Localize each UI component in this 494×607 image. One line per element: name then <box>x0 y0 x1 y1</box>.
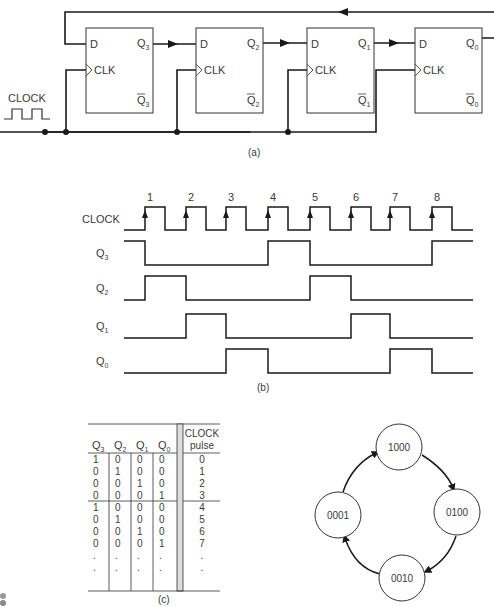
table-header-q3: Q3 <box>92 439 105 453</box>
table-cell-pulse: 7 <box>199 538 205 549</box>
state-transition-arrow <box>427 536 456 571</box>
table-cell-pulse: 0 <box>199 454 205 465</box>
table-cell-pulse: 4 <box>199 502 205 513</box>
panel-a-circuit: CLOCK DCLKQ3Q3DCLKQ2Q2DCLKQ1Q1DCLKQ0Q0 (… <box>0 8 494 158</box>
table-row: 00102 <box>93 478 205 489</box>
table-cell: 0 <box>137 490 143 501</box>
table-cell: 0 <box>137 502 143 513</box>
table-row: 01001 <box>93 466 205 477</box>
signal-label-q1: Q1 <box>96 320 109 334</box>
panel-c-table: Q3Q2Q1Q0CLOCKpulse1000001001001020001310… <box>88 424 220 605</box>
table-cell: . <box>159 550 162 561</box>
table-cell-pulse: 1 <box>199 466 205 477</box>
table-cell: 0 <box>93 490 99 501</box>
rising-edge-arrow-icon <box>387 210 393 218</box>
arrow-icon <box>389 39 399 47</box>
table-cell: 0 <box>93 514 99 525</box>
state-label: 0100 <box>446 507 469 518</box>
flip-flop-ff2: DCLKQ2Q2 <box>196 28 263 113</box>
table-header-clock: CLOCK <box>185 428 220 439</box>
panel-b-timing: CLOCKQ3Q2Q1Q0 12345678 (b) <box>82 191 473 393</box>
table-cell: 0 <box>93 466 99 477</box>
pulse-number: 6 <box>353 191 359 203</box>
table-header-q2: Q2 <box>114 439 127 453</box>
pulse-number: 3 <box>228 191 234 203</box>
state-node-0010: 0010 <box>379 555 425 601</box>
table-cell-pulse: 5 <box>199 514 205 525</box>
table-cell: 0 <box>115 490 121 501</box>
corner-icon <box>0 593 6 606</box>
clk-input-label: CLK <box>94 64 116 76</box>
table-cell: 0 <box>159 514 165 525</box>
table-cell: . <box>93 550 96 561</box>
table-cell: 0 <box>159 526 165 537</box>
table-row: 00017 <box>93 538 205 549</box>
pulse-number: 7 <box>392 191 398 203</box>
table-cell: 0 <box>137 466 143 477</box>
q0-waveform <box>124 349 473 373</box>
clock-to-ff1 <box>288 70 307 132</box>
clk-input-label: CLK <box>315 64 337 76</box>
rising-edge-arrow-icon <box>223 210 229 218</box>
clock-to-ff3 <box>66 70 86 132</box>
state-node-0001: 0001 <box>315 492 361 538</box>
table-cell: 1 <box>115 466 121 477</box>
table-cell: 0 <box>93 526 99 537</box>
table-cell: 0 <box>137 538 143 549</box>
junction-dot <box>285 129 291 135</box>
state-transition-arrow <box>422 455 453 488</box>
pulse-number: 5 <box>312 191 318 203</box>
caption-b: (b) <box>257 382 269 393</box>
table-cell: 0 <box>115 538 121 549</box>
table-cell: 0 <box>115 454 121 465</box>
d-input-label: D <box>311 38 319 50</box>
q1-waveform <box>124 314 473 338</box>
arrow-icon <box>168 40 178 48</box>
rising-edge-arrow-icon <box>183 210 189 218</box>
table-cell: 0 <box>93 538 99 549</box>
clk-input-label: CLK <box>423 64 445 76</box>
table-cell: 1 <box>115 514 121 525</box>
signal-label-q2: Q2 <box>96 282 109 296</box>
state-label: 1000 <box>388 442 411 453</box>
table-cell: 0 <box>159 478 165 489</box>
pulse-number: 4 <box>270 191 276 203</box>
table-cell: 0 <box>115 478 121 489</box>
pulse-number: 1 <box>147 191 153 203</box>
clock-source-label: CLOCK <box>8 92 47 104</box>
d-input-label: D <box>90 38 98 50</box>
q3-waveform <box>124 241 473 265</box>
clock-waveform <box>124 207 473 230</box>
rising-edge-arrow-icon <box>142 210 148 218</box>
q2-waveform <box>124 276 473 300</box>
table-cell: 1 <box>137 478 143 489</box>
flip-flop-ff3: DCLKQ3Q3 <box>86 28 153 113</box>
table-header-q1: Q1 <box>136 439 149 453</box>
signal-label-q3: Q3 <box>96 247 109 261</box>
pulse-number: 2 <box>188 191 194 203</box>
table-cell: 1 <box>159 538 165 549</box>
table-row: ..... <box>93 550 203 561</box>
signal-label-clock: CLOCK <box>82 213 121 225</box>
table-cell: . <box>159 562 162 573</box>
caption-c: (c) <box>158 594 170 605</box>
table-cell-pulse: 2 <box>199 478 205 489</box>
table-row: ..... <box>93 562 203 573</box>
state-transition-arrow <box>345 538 380 574</box>
state-label: 0001 <box>327 510 350 521</box>
table-cell: . <box>115 550 118 561</box>
table-cell: . <box>137 562 140 573</box>
rising-edge-arrow-icon <box>307 210 313 218</box>
pulse-number: 8 <box>434 191 440 203</box>
table-cell: . <box>115 562 118 573</box>
junction-dot <box>174 129 180 135</box>
table-cell: . <box>137 550 140 561</box>
table-row: 10000 <box>93 454 205 465</box>
table-cell: 1 <box>93 502 99 513</box>
table-cell-pulse: . <box>201 562 204 573</box>
state-label: 0010 <box>391 573 414 584</box>
panel-d-state-diagram: 1000010000100001 <box>315 424 480 601</box>
state-transition-arrow <box>343 453 376 492</box>
table-cell: . <box>93 562 96 573</box>
table-header-q0: Q0 <box>158 439 171 453</box>
